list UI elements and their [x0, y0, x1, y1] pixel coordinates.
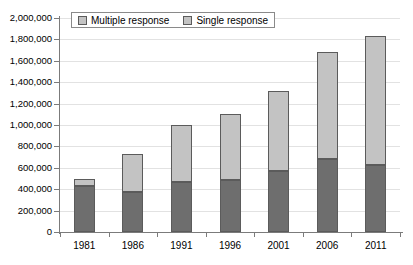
bar-group[interactable]: [268, 18, 289, 232]
bar-group[interactable]: [74, 18, 95, 232]
y-axis-tick-mark: [54, 168, 59, 169]
bar-segment-multiple-response[interactable]: [317, 52, 338, 159]
y-axis-tick-label: 1,800,000: [0, 34, 52, 44]
legend-swatch-single-response-icon: [183, 16, 192, 25]
x-axis-tick-mark: [400, 232, 401, 237]
y-axis-tick-mark: [54, 232, 59, 233]
y-axis-tick-label: 2,000,000: [0, 13, 52, 23]
bar-segment-single-response[interactable]: [317, 159, 338, 232]
bar-segment-multiple-response[interactable]: [122, 154, 143, 191]
bar-segment-multiple-response[interactable]: [74, 179, 95, 186]
legend-label: Multiple response: [91, 15, 169, 26]
x-axis-tick-mark: [206, 232, 207, 237]
y-axis-tick-label: 0: [0, 227, 52, 237]
legend-label: Single response: [196, 15, 268, 26]
x-axis-tick-mark: [351, 232, 352, 237]
y-axis-tick-mark: [54, 82, 59, 83]
x-axis-tick-mark: [254, 232, 255, 237]
y-axis-tick-label: 1,400,000: [0, 77, 52, 87]
y-axis-tick-label: 1,000,000: [0, 120, 52, 130]
x-axis-tick-mark: [303, 232, 304, 237]
y-axis-tick-mark: [54, 189, 59, 190]
y-axis-tick-labels: 0200,000400,000600,000800,0001,000,0001,…: [0, 0, 52, 265]
x-axis-tick-label: 2001: [254, 240, 304, 252]
y-axis-tick-mark: [54, 61, 59, 62]
bar-segment-multiple-response[interactable]: [171, 125, 192, 182]
bar-segment-single-response[interactable]: [122, 192, 143, 232]
y-axis-tick-mark: [54, 146, 59, 147]
x-axis-tick-mark: [109, 232, 110, 237]
chart-legend: Multiple responseSingle response: [71, 12, 275, 28]
chart-container: 0200,000400,000600,000800,0001,000,0001,…: [0, 0, 413, 265]
bar-segment-single-response[interactable]: [220, 180, 241, 232]
bar-segment-multiple-response[interactable]: [220, 114, 241, 180]
bar-group[interactable]: [317, 18, 338, 232]
y-axis-tick-mark: [54, 18, 59, 19]
bar-group[interactable]: [171, 18, 192, 232]
bar-segment-single-response[interactable]: [268, 171, 289, 232]
x-axis-tick-mark: [60, 232, 61, 237]
y-axis-tick-mark: [54, 211, 59, 212]
x-axis-tick-label: 1981: [59, 240, 109, 252]
legend-swatch-multiple-response-icon: [78, 16, 87, 25]
bar-group[interactable]: [122, 18, 143, 232]
bar-group[interactable]: [220, 18, 241, 232]
x-axis-tick-mark: [157, 232, 158, 237]
y-axis-tick-mark: [54, 104, 59, 105]
x-axis-tick-label: 1986: [108, 240, 158, 252]
x-axis-tick-label: 2011: [351, 240, 401, 252]
legend-entry[interactable]: Single response: [183, 15, 268, 26]
x-axis-tick-label: 1996: [205, 240, 255, 252]
bar-segment-single-response[interactable]: [365, 165, 386, 232]
y-axis-tick-label: 1,200,000: [0, 99, 52, 109]
y-axis-tick-mark: [54, 39, 59, 40]
y-axis-tick-label: 600,000: [0, 163, 52, 173]
y-axis-tick-mark: [54, 125, 59, 126]
y-axis-tick-label: 800,000: [0, 141, 52, 151]
legend-entry[interactable]: Multiple response: [78, 15, 169, 26]
y-axis-tick-label: 200,000: [0, 206, 52, 216]
bar-segment-single-response[interactable]: [74, 186, 95, 232]
bar-group[interactable]: [365, 18, 386, 232]
x-axis-tick-label: 2006: [302, 240, 352, 252]
bar-segment-multiple-response[interactable]: [365, 36, 386, 165]
y-axis-tick-label: 1,600,000: [0, 56, 52, 66]
x-axis-tick-label: 1991: [156, 240, 206, 252]
bar-segment-multiple-response[interactable]: [268, 91, 289, 171]
plot-area: [60, 18, 400, 232]
y-axis-tick-label: 400,000: [0, 184, 52, 194]
bar-segment-single-response[interactable]: [171, 182, 192, 232]
